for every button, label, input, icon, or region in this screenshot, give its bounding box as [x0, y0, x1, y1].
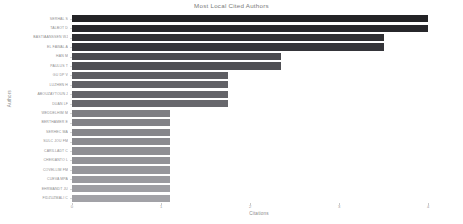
- y-axis-tick-mark: [70, 19, 72, 20]
- bar-row: [72, 110, 446, 117]
- y-axis-tick-mark: [70, 198, 72, 199]
- bar[interactable]: [72, 25, 428, 32]
- bar[interactable]: [72, 157, 170, 164]
- y-axis-tick-label: EHRMANDT JU: [2, 187, 68, 191]
- x-axis-tick-label: 3: [329, 204, 349, 209]
- y-axis-tick-mark: [70, 179, 72, 180]
- bar-row: [72, 72, 446, 79]
- bar-row: [72, 195, 446, 202]
- y-axis-tick-label: PAULUS T: [2, 64, 68, 68]
- bar[interactable]: [72, 91, 228, 98]
- y-axis-tick-mark: [70, 66, 72, 67]
- y-axis-tick-label: TALBOT D: [2, 26, 68, 30]
- bar[interactable]: [72, 119, 170, 126]
- y-axis-tick-mark: [70, 160, 72, 161]
- x-axis-title: Citations: [72, 211, 446, 216]
- bar[interactable]: [72, 72, 228, 79]
- bar-row: [72, 100, 446, 107]
- y-axis-tick-label: DUAN LF: [2, 102, 68, 106]
- bar-row: [72, 43, 446, 50]
- y-axis-tick-mark: [70, 123, 72, 124]
- bar-row: [72, 147, 446, 154]
- plot-area: [72, 14, 446, 203]
- y-axis-tick-mark: [70, 104, 72, 105]
- y-axis-tick-label: SERHEC MA: [2, 130, 68, 134]
- bar-row: [72, 166, 446, 173]
- y-axis-tick-label: EL FAWAL A: [2, 45, 68, 49]
- y-axis-tick-mark: [70, 28, 72, 29]
- bar[interactable]: [72, 138, 170, 145]
- y-axis-tick-label: GU DP V: [2, 73, 68, 77]
- bar[interactable]: [72, 129, 170, 136]
- y-axis-tick-mark: [70, 170, 72, 171]
- y-axis-tick-mark: [70, 94, 72, 95]
- y-axis-tick-mark: [70, 189, 72, 190]
- y-axis-tick-mark: [70, 132, 72, 133]
- bar[interactable]: [72, 34, 384, 41]
- chart-container: Most Local Cited Authors Authors SERHAL …: [0, 0, 463, 224]
- y-axis-tick-mark: [70, 75, 72, 76]
- bar[interactable]: [72, 100, 228, 107]
- y-axis-tick-mark: [70, 85, 72, 86]
- bar[interactable]: [72, 195, 170, 202]
- bar-row: [72, 62, 446, 69]
- y-axis-tick-mark: [70, 142, 72, 143]
- bar[interactable]: [72, 166, 170, 173]
- bar[interactable]: [72, 81, 228, 88]
- bar[interactable]: [72, 176, 170, 183]
- bar[interactable]: [72, 53, 281, 60]
- bar-row: [72, 119, 446, 126]
- x-axis-tick-label: 4: [418, 204, 438, 209]
- bar-row: [72, 81, 446, 88]
- y-axis-tick-mark: [70, 151, 72, 152]
- y-axis-tick-label: FIDZUZMALI C: [2, 196, 68, 200]
- bar-row: [72, 25, 446, 32]
- y-axis-tick-mark: [70, 57, 72, 58]
- y-axis-tick-mark: [70, 47, 72, 48]
- y-axis-tick-label: CARILLADT C: [2, 149, 68, 153]
- y-axis-tick-label: COVELLIM FM: [2, 168, 68, 172]
- bar[interactable]: [72, 62, 281, 69]
- x-axis-tick-label: 0: [62, 204, 82, 209]
- y-axis-tick-label: HAN M: [2, 54, 68, 58]
- y-axis-tick-label: WEDDELHIM M: [2, 111, 68, 115]
- bar-row: [72, 53, 446, 60]
- bar[interactable]: [72, 147, 170, 154]
- bar-row: [72, 129, 446, 136]
- y-axis-tick-label: LUZHEN H: [2, 83, 68, 87]
- bar-row: [72, 34, 446, 41]
- bar[interactable]: [72, 15, 428, 22]
- y-axis-tick-label: SERHAL S: [2, 17, 68, 21]
- y-axis-tick-label: BASTIAANSSEN WJ: [2, 35, 68, 39]
- x-axis-tick-label: 2: [240, 204, 260, 209]
- bar-row: [72, 185, 446, 192]
- bar[interactable]: [72, 43, 384, 50]
- y-axis-tick-label: CUEVA MPA: [2, 177, 68, 181]
- bar-row: [72, 138, 446, 145]
- bar[interactable]: [72, 185, 170, 192]
- y-axis-tick-label: BERTHAMER E: [2, 120, 68, 124]
- bar-row: [72, 157, 446, 164]
- bar-row: [72, 176, 446, 183]
- bar[interactable]: [72, 110, 170, 117]
- x-axis-tick-label: 1: [151, 204, 171, 209]
- y-axis-tick-label: CHEKIANTO L: [2, 158, 68, 162]
- bar-row: [72, 15, 446, 22]
- y-axis-tick-label: ABOUZAYTOUN J: [2, 92, 68, 96]
- y-axis-tick-mark: [70, 113, 72, 114]
- bar-row: [72, 91, 446, 98]
- y-axis-tick-label: SULC JOU FM: [2, 139, 68, 143]
- chart-title: Most Local Cited Authors: [0, 2, 463, 9]
- y-axis-tick-mark: [70, 38, 72, 39]
